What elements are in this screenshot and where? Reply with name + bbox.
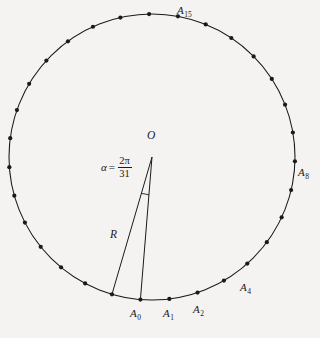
polygon-vertex-dot [91,25,95,29]
vertex-label-subscript: 4 [247,287,251,296]
polygon-vertex-dot [283,103,287,107]
vertex-label-a4: A4 [240,282,251,293]
vertex-label-subscript: 8 [305,172,309,181]
circle-diagram-svg [0,0,320,338]
polygon-vertex-dot [229,36,233,40]
angle-fraction: 2π 31 [118,156,132,179]
vertex-label-subscript: 1 [170,313,174,322]
vertex-label-base: A [130,307,137,319]
polygon-vertex-dot [7,165,11,169]
polygon-vertex-dot [222,279,226,283]
polygon-vertex-dot [291,130,295,134]
vertex-label-a1: A1 [163,308,174,319]
vertex-label-a0: A0 [130,308,141,319]
polygon-vertex-dot [293,159,297,163]
central-angle-arc [141,193,149,194]
vertex-label-base: A [240,281,247,293]
vertex-label-base: A [177,4,184,16]
vertex-label-base: A [193,303,200,315]
fraction-numerator: 2π [118,156,131,167]
polygon-vertex-dot [265,240,269,244]
polygon-vertex-dot [23,220,27,224]
geometry-figure: O R α = 2π 31 A0A1A2A4A8A15 [0,0,320,338]
polygon-vertex-dot [8,136,12,140]
polygon-vertex-dot [147,12,151,16]
polygon-vertex-dot [44,59,48,63]
center-point-label-o: O [147,130,155,142]
alpha-symbol: α [101,162,107,173]
polygon-vertex-dot [289,188,293,192]
equals-sign: = [109,162,115,173]
polygon-vertex-dot [59,265,63,269]
vertex-label-subscript: 2 [200,309,204,318]
polygon-vertex-dot [270,77,274,81]
vertex-label-subscript: 15 [184,10,192,19]
vertex-label-a15: A15 [177,5,192,16]
vertex-label-base: A [298,166,305,178]
polygon-vertex-dot [252,54,256,58]
polygon-vertex-dot [280,215,284,219]
vertex-label-base: A [163,307,170,319]
polygon-vertex-dot [118,15,122,19]
polygon-vertex-dot [167,297,171,301]
vertex-label-a8: A8 [298,167,309,178]
vertex-label-subscript: 0 [137,313,141,322]
polygon-vertex-dot [83,281,87,285]
radius-label-r: R [110,229,117,241]
polygon-vertex-dot [204,22,208,26]
polygon-vertex-dot [12,194,16,198]
polygon-vertex-dot [15,108,19,112]
vertex-label-a2: A2 [193,304,204,315]
polygon-vertex-dot [245,261,249,265]
central-angle-equation: α = 2π 31 [101,156,132,179]
fraction-denominator: 31 [118,168,131,179]
polygon-vertex-dot [66,39,70,43]
polygon-vertex-dot [27,82,31,86]
polygon-vertex-dot [39,245,43,249]
polygon-vertex-dot [195,290,199,294]
